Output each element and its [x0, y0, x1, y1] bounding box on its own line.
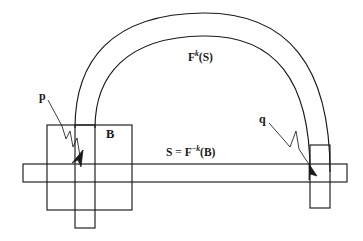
label-box-B: B [106, 128, 114, 141]
figure-canvas: p q B Fk(S) S = F−k(B) [0, 0, 363, 241]
left-vertical-strip [75, 125, 95, 228]
strip-lhs: S [166, 146, 172, 158]
diagram-svg [0, 0, 363, 241]
box-B-rect [47, 125, 132, 210]
horizontal-strip-S [23, 164, 347, 182]
p-leader-line [48, 100, 83, 156]
strip-argument: (B) [200, 146, 215, 158]
strip-base: F [185, 146, 192, 158]
forward-image-argument: (S) [199, 51, 213, 63]
label-point-q: q [259, 113, 266, 125]
right-vertical-strip [310, 145, 330, 208]
strip-equals: = [175, 146, 182, 158]
q-leader-line [269, 123, 309, 164]
strip-exponent: −k [192, 144, 200, 153]
label-strip-equation: S = F−k(B) [166, 145, 215, 158]
label-point-p: p [39, 90, 46, 102]
label-forward-image: Fk(S) [188, 50, 213, 63]
forward-image-base: F [188, 51, 195, 63]
